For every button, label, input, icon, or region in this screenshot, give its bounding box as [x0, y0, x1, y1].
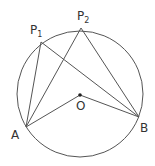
segment-p1-b: [41, 42, 139, 117]
segment-a-o: [26, 95, 80, 127]
label-p1: P1: [30, 23, 42, 39]
segment-p2-b: [81, 28, 139, 117]
label-o: O: [76, 99, 85, 113]
center-point: [78, 93, 82, 97]
label-p2: P2: [77, 9, 89, 25]
circle-diagram: P1 P2 A B O: [0, 0, 155, 166]
label-a: A: [11, 128, 20, 142]
label-b: B: [140, 121, 148, 135]
segment-o-b: [80, 95, 139, 117]
